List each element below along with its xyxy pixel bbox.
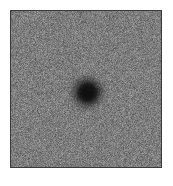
noise-image-canvas: [11, 11, 161, 167]
figure-root: [0, 0, 173, 186]
noise-image-panel: [10, 10, 162, 168]
